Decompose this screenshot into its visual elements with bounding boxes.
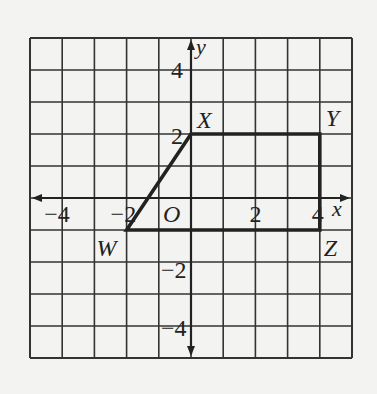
y-tick-label: 4 <box>171 57 183 83</box>
x-axis-left-arrow-icon <box>32 194 42 202</box>
x-axis-label: x <box>331 196 342 221</box>
y-tick-label: −4 <box>161 315 187 341</box>
coordinate-plane: yxO−4−22442−2−4WXYZ <box>0 0 377 394</box>
vertex-label-x: X <box>196 107 213 133</box>
x-tick-label: −4 <box>44 201 70 227</box>
y-tick-label: −2 <box>161 257 187 283</box>
vertex-label-z: Z <box>324 235 338 261</box>
labels: yxO−4−22442−2−4WXYZ <box>44 34 342 341</box>
x-tick-label: 2 <box>249 201 261 227</box>
x-tick-label: −2 <box>111 201 137 227</box>
axes <box>32 40 350 356</box>
vertex-label-w: W <box>97 235 119 261</box>
y-axis-up-arrow-icon <box>187 40 195 50</box>
x-tick-label: 4 <box>312 201 324 227</box>
y-tick-label: 2 <box>171 123 183 149</box>
vertex-label-y: Y <box>326 105 342 131</box>
origin-label: O <box>163 201 180 227</box>
y-axis-down-arrow-icon <box>187 346 195 356</box>
y-axis-label: y <box>194 34 206 59</box>
